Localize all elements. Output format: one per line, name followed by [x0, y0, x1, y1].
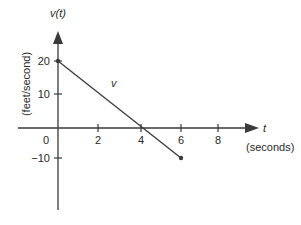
- x-tick-label-6: 6: [178, 134, 184, 146]
- y-axis-label: v(t): [50, 7, 66, 19]
- y-tick-label-neg10: −10: [31, 152, 50, 164]
- y-tick-label-20: 20: [38, 55, 50, 67]
- x-tick-label-4: 4: [138, 134, 144, 146]
- start-point: [56, 59, 60, 63]
- x-tick-label-2: 2: [95, 134, 101, 146]
- velocity-line: [58, 61, 181, 158]
- series-label: v: [111, 77, 118, 89]
- y-tick-label-10: 10: [38, 88, 50, 100]
- y-axis-arrow-icon: [53, 31, 63, 44]
- end-point: [179, 156, 183, 160]
- x-axis-label: t: [263, 122, 267, 134]
- x-axis-arrow-icon: [245, 123, 259, 133]
- velocity-chart: v(t) (feet/second) v t (seconds) 0 2 4 6…: [0, 0, 301, 225]
- x-unit-label: (seconds): [246, 141, 294, 153]
- x-tick-label-0: 0: [43, 134, 49, 146]
- x-tick-label-8: 8: [215, 134, 221, 146]
- y-unit-label: (feet/second): [20, 52, 32, 116]
